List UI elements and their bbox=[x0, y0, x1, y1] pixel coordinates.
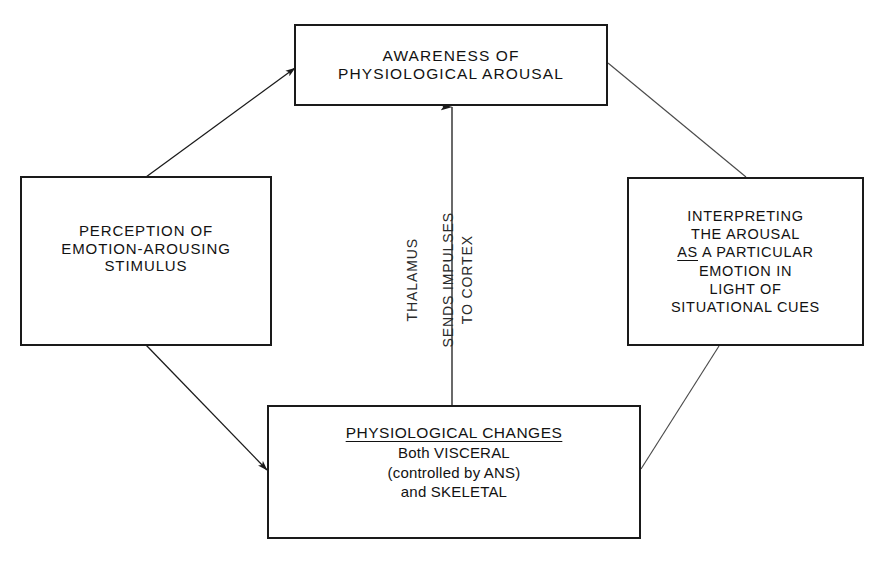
arrow-caption-column-to-cortex: TO CORTEX bbox=[459, 235, 475, 324]
node-interpreting-line-3: AS A PARTICULAR bbox=[677, 243, 814, 261]
connector-perception-to-awareness bbox=[146, 68, 295, 177]
connector-perception-to-physiological bbox=[146, 345, 267, 470]
node-physiological-line-3: and SKELETAL bbox=[401, 482, 507, 502]
node-interpreting-line-1: INTERPRETING bbox=[687, 207, 803, 225]
node-perception-line-2: EMOTION-AROUSING bbox=[61, 240, 230, 258]
connector-awareness-to-interpreting bbox=[608, 63, 746, 177]
node-interpreting-underlined-word: AS bbox=[677, 244, 698, 260]
node-awareness-of-physiological-arousal: AWARENESS OF PHYSIOLOGICAL AROUSAL bbox=[294, 24, 608, 106]
node-interpreting-line-4: EMOTION IN bbox=[699, 262, 792, 280]
node-physiological-changes: PHYSIOLOGICAL CHANGES Both VISCERAL (con… bbox=[267, 405, 641, 539]
diagram-canvas: AWARENESS OF PHYSIOLOGICAL AROUSAL PERCE… bbox=[0, 0, 882, 566]
node-perception-line-3: STIMULUS bbox=[104, 257, 187, 275]
connector-physiological-to-interpreting bbox=[641, 346, 719, 469]
node-physiological-line-1: Both VISCERAL bbox=[398, 443, 510, 463]
node-physiological-heading: PHYSIOLOGICAL CHANGES bbox=[346, 423, 563, 443]
node-perception-of-emotion-arousing-stimulus: PERCEPTION OF EMOTION-AROUSING STIMULUS bbox=[20, 176, 272, 346]
node-interpreting-line-3-rest: A PARTICULAR bbox=[698, 244, 814, 260]
node-awareness-line-1: AWARENESS OF bbox=[383, 47, 520, 65]
node-interpreting-line-2: THE AROUSAL bbox=[691, 225, 800, 243]
arrow-caption-column-thalamus: THALAMUS bbox=[404, 238, 420, 321]
node-perception-line-1: PERCEPTION OF bbox=[79, 222, 213, 240]
node-interpreting-line-6: SITUATIONAL CUES bbox=[671, 298, 820, 316]
node-interpreting-the-arousal: INTERPRETING THE AROUSAL AS A PARTICULAR… bbox=[627, 177, 864, 346]
arrow-caption-column-sends-impulses: SENDS IMPULSES bbox=[440, 212, 456, 348]
node-interpreting-line-5: LIGHT OF bbox=[709, 280, 781, 298]
arrow-caption-thalamus-sends-impulses-to-cortex: THALAMUS SENDS IMPULSES TO CORTEX bbox=[404, 160, 504, 400]
node-awareness-line-2: PHYSIOLOGICAL AROUSAL bbox=[338, 65, 564, 83]
node-physiological-line-2: (controlled by ANS) bbox=[387, 463, 520, 483]
